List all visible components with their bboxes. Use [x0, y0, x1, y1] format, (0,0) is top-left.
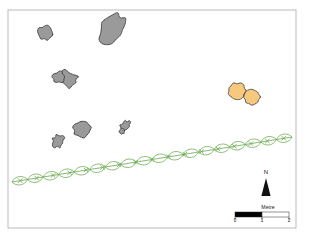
pit-1 — [228, 83, 246, 100]
scale-bar-unit-label: Metre — [261, 204, 274, 210]
scale-bar-segments — [235, 212, 289, 217]
scale-bar-segment — [235, 212, 262, 217]
scale-bar-tick-label: 2 — [288, 218, 291, 223]
scale-bar-tick-label: 1 — [261, 218, 264, 223]
scale-bar-tick-label: 0 — [234, 218, 237, 223]
north-arrow-label: N — [264, 169, 268, 175]
scale-bar-segment — [262, 212, 289, 217]
site-plan-figure: N Metre 012 — [0, 0, 309, 237]
map-canvas: N Metre 012 — [0, 0, 309, 237]
